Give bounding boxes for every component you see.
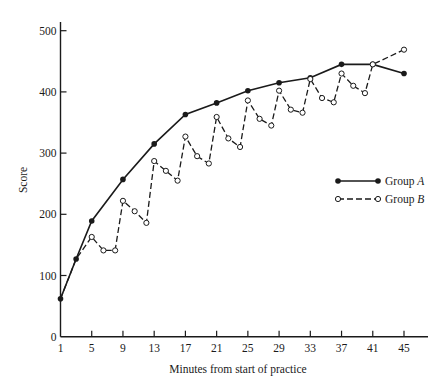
group-b-point (163, 168, 168, 173)
legend-label-group-a: Group A (385, 175, 425, 188)
legend-item-group-b: Group B (335, 193, 424, 206)
group-b-point (120, 198, 125, 203)
filled-circle-marker-icon (375, 178, 381, 184)
group-b-point (370, 62, 375, 67)
legend: Group A Group B (335, 175, 425, 206)
open-circle-marker-icon (335, 196, 340, 201)
x-tick-label: 21 (211, 342, 223, 354)
y-tick-label: 400 (39, 86, 57, 98)
group-b-point (308, 76, 313, 81)
x-axis: 159131721252933374145 (58, 331, 428, 354)
x-tick-label: 1 (58, 342, 64, 354)
legend-label-group-b: Group B (385, 193, 424, 206)
group-b-point (288, 107, 293, 112)
open-circle-marker-icon (375, 196, 380, 201)
series-group-b (61, 47, 407, 299)
x-tick-label: 41 (367, 342, 379, 354)
group-a-point (120, 177, 126, 183)
group-b-point (206, 161, 211, 166)
group-a-point (339, 62, 345, 68)
group-b-point (237, 144, 242, 149)
group-a-point (183, 112, 189, 118)
group-b-point (245, 98, 250, 103)
group-b-point (362, 91, 367, 96)
group-b-point (113, 248, 118, 253)
group-b-point (276, 88, 281, 93)
group-b-point (319, 95, 324, 100)
group-a-point (276, 80, 282, 86)
group-b-point (226, 136, 231, 141)
group-b-point (101, 248, 106, 253)
group-b-point (257, 116, 262, 121)
x-tick-label: 5 (89, 342, 95, 354)
y-tick-label: 0 (51, 331, 57, 343)
filled-circle-marker-icon (335, 178, 341, 184)
x-tick-label: 17 (180, 342, 192, 354)
x-tick-label: 29 (273, 342, 285, 354)
group-b-point (89, 234, 94, 239)
y-tick-label: 500 (39, 25, 57, 37)
group-a-point (151, 141, 157, 147)
x-axis-title: Minutes from start of practice (169, 363, 306, 376)
y-axis-title: Score (17, 167, 29, 193)
group-b-point (401, 47, 406, 52)
group-a-point (89, 218, 95, 224)
group-b-point (195, 154, 200, 159)
x-tick-label: 13 (148, 342, 160, 354)
legend-item-group-a: Group A (335, 175, 425, 188)
group-b-point (183, 134, 188, 139)
x-tick-label: 37 (336, 342, 348, 354)
group-b-point (351, 83, 356, 88)
group-a-point (245, 88, 251, 94)
group-b-point (269, 123, 274, 128)
group-b-point (175, 178, 180, 183)
x-tick-label: 45 (398, 342, 410, 354)
group-b-point (144, 220, 149, 225)
y-tick-label: 200 (39, 208, 57, 220)
x-tick-label: 9 (120, 342, 126, 354)
learning-curve-chart: 0100200300400500 159131721252933374145 S… (0, 0, 446, 392)
y-tick-label: 300 (39, 147, 57, 159)
group-b-point (300, 110, 305, 115)
group-b-point (152, 158, 157, 163)
group-b-point (331, 100, 336, 105)
group-b-point (132, 209, 137, 214)
group-b-point (214, 114, 219, 119)
x-tick-label: 33 (305, 342, 317, 354)
group-a-point (214, 100, 220, 106)
y-tick-label: 100 (39, 270, 57, 282)
group-a-point (401, 71, 407, 77)
group-b-point (339, 71, 344, 76)
x-tick-label: 25 (242, 342, 254, 354)
